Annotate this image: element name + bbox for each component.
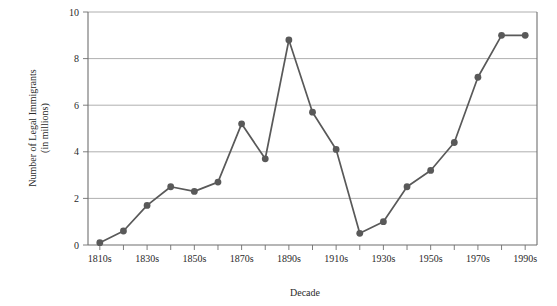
data-point xyxy=(475,74,482,81)
x-tick-label: 1890s xyxy=(277,253,301,264)
x-tick-marks xyxy=(100,245,525,250)
data-point xyxy=(404,183,411,190)
data-point xyxy=(262,155,269,162)
x-tick-label: 1910s xyxy=(324,253,348,264)
data-point xyxy=(238,120,245,127)
data-point xyxy=(144,202,151,209)
data-point xyxy=(285,37,292,44)
y-tick-label: 8 xyxy=(74,53,79,64)
data-point xyxy=(427,167,434,174)
data-point xyxy=(191,188,198,195)
data-point xyxy=(498,32,505,39)
y-tick-label: 4 xyxy=(74,146,79,157)
x-tick-label: 1930s xyxy=(371,253,395,264)
data-point xyxy=(356,230,363,237)
immigration-series-line xyxy=(100,35,525,242)
y-tick-label: 6 xyxy=(74,100,79,111)
y-tick-label: 10 xyxy=(69,7,79,18)
data-point-markers xyxy=(96,32,528,246)
x-tick-label: 1950s xyxy=(419,253,443,264)
gridlines xyxy=(88,12,537,198)
y-tick-marks xyxy=(83,12,88,245)
immigration-line-chart: 0246810 1810s1830s1850s1870s1890s1910s19… xyxy=(0,0,557,306)
x-tick-label: 1990s xyxy=(513,253,537,264)
data-point xyxy=(96,239,103,246)
data-point xyxy=(380,218,387,225)
y-tick-labels: 0246810 xyxy=(69,7,79,251)
data-point xyxy=(120,228,127,235)
chart-page: 0246810 1810s1830s1850s1870s1890s1910s19… xyxy=(0,0,557,306)
y-axis-title-line1: Number of Legal Immigrants xyxy=(27,69,38,187)
y-axis-title-line2: (in millions) xyxy=(39,103,51,153)
y-tick-label: 0 xyxy=(74,240,79,251)
x-tick-label: 1870s xyxy=(230,253,254,264)
x-tick-label: 1810s xyxy=(88,253,112,264)
x-axis-title: Decade xyxy=(290,287,321,298)
axes xyxy=(88,12,537,245)
x-tick-label: 1970s xyxy=(466,253,490,264)
x-tick-label: 1850s xyxy=(182,253,206,264)
data-point xyxy=(451,139,458,146)
y-tick-label: 2 xyxy=(74,193,79,204)
data-point xyxy=(167,183,174,190)
data-point xyxy=(215,179,222,186)
x-tick-label: 1830s xyxy=(135,253,159,264)
data-point xyxy=(309,109,316,116)
data-point xyxy=(522,32,529,39)
x-tick-labels: 1810s1830s1850s1870s1890s1910s1930s1950s… xyxy=(88,253,537,264)
data-point xyxy=(333,146,340,153)
